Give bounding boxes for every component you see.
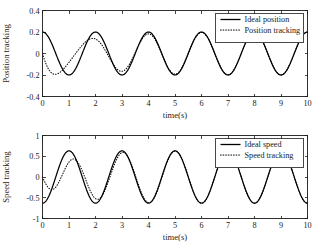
x-tick-label: 0 [40, 221, 44, 230]
x-tick-label: 2 [93, 221, 97, 230]
y-tick-label: -1 [33, 215, 40, 224]
x-tick-label: 8 [252, 99, 256, 108]
x-axis-title: time(s) [163, 232, 187, 242]
legend: Ideal speedSpeed tracking [216, 139, 304, 168]
x-tick-label: 8 [252, 221, 256, 230]
y-tick-label: 0.5 [29, 152, 39, 161]
y-tick-label: -0.4 [27, 93, 40, 102]
x-tick-label: 6 [199, 99, 203, 108]
y-tick-label: -0.5 [27, 194, 40, 203]
legend-label-1: Ideal position [245, 15, 290, 24]
x-tick-label: 0 [40, 99, 44, 108]
x-tick-label: 7 [226, 221, 230, 230]
y-tick-label: 1 [35, 132, 39, 141]
x-tick-label: 7 [226, 99, 230, 108]
x-tick-label: 4 [146, 99, 150, 108]
legend: Ideal positionPosition tracking [216, 14, 304, 43]
y-tick-label: 0 [35, 50, 39, 59]
y-tick-label: -0.2 [27, 71, 40, 80]
y-tick-label: 0 [35, 173, 39, 182]
y-tick-label: 0.2 [29, 28, 39, 37]
y-axis-title: Speed tracking [1, 151, 11, 203]
y-tick-label: 0.4 [29, 7, 39, 16]
x-tick-label: 4 [146, 221, 150, 230]
x-tick-label: 1 [67, 221, 71, 230]
chart-panel-speed-tracking: 012345678910-1-0.500.51time(s)Speed trac… [0, 125, 318, 250]
chart-panel-position-tracking: 012345678910-0.4-0.200.20.4time(s)Positi… [0, 0, 318, 125]
x-tick-label: 10 [303, 99, 311, 108]
legend-label-1: Ideal speed [245, 140, 282, 149]
x-tick-label: 5 [173, 221, 177, 230]
legend-label-2: Position tracking [245, 26, 301, 35]
x-tick-label: 3 [120, 99, 124, 108]
x-tick-label: 10 [303, 221, 311, 230]
x-tick-label: 1 [67, 99, 71, 108]
legend-label-2: Speed tracking [245, 151, 294, 160]
x-tick-label: 2 [93, 99, 97, 108]
x-tick-label: 5 [173, 99, 177, 108]
x-tick-label: 9 [279, 221, 283, 230]
x-tick-label: 9 [279, 99, 283, 108]
y-axis-title: Position tracking [1, 24, 11, 83]
figure-container: 012345678910-0.4-0.200.20.4time(s)Positi… [0, 0, 318, 250]
x-axis-title: time(s) [163, 110, 187, 120]
x-tick-label: 3 [120, 221, 124, 230]
x-tick-label: 6 [199, 221, 203, 230]
position-tracking-chart: 012345678910-0.4-0.200.20.4time(s)Positi… [0, 0, 318, 125]
speed-tracking-chart: 012345678910-1-0.500.51time(s)Speed trac… [0, 125, 318, 250]
